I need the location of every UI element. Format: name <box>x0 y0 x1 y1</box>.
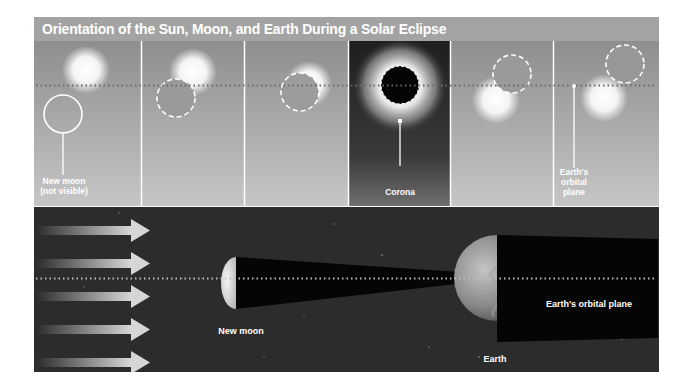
label-new-moon-bottom: New moon <box>218 326 264 336</box>
sun <box>62 46 110 94</box>
label-not-visible: (not visible) <box>40 186 88 196</box>
moon-dashed <box>493 55 531 93</box>
label-corona: Corona <box>385 187 415 197</box>
label-orbital: orbital <box>561 177 587 187</box>
orbital-callout-dot <box>572 84 576 88</box>
corona-callout-dot <box>398 119 402 123</box>
moon-dashed <box>606 45 644 83</box>
panel-3 <box>245 41 348 206</box>
moon-total <box>381 66 419 104</box>
panel-2 <box>142 41 244 206</box>
label-earths: Earth's <box>560 167 589 177</box>
moon-dashed <box>281 73 319 111</box>
diagram-canvas: New moon (not visible) Corona Earth's or… <box>34 17 659 372</box>
label-orbital-plane: Earth's orbital plane <box>546 299 632 309</box>
earth-shadow <box>497 235 658 342</box>
panel-5 <box>451 41 553 206</box>
eclipse-diagram: Orientation of the Sun, Moon, and Earth … <box>34 17 659 372</box>
label-earth: Earth <box>483 354 506 364</box>
label-plane: plane <box>563 187 585 197</box>
space-panel <box>34 207 659 372</box>
label-new-moon-top: New moon <box>43 176 86 186</box>
